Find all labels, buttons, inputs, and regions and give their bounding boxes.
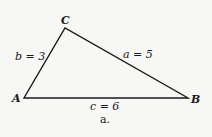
- vertex-label-c: C: [61, 14, 70, 27]
- side-label-a: a = 5: [123, 48, 153, 61]
- side-label-b: b = 3: [15, 50, 45, 63]
- triangle-abc: [24, 28, 188, 98]
- figure-caption: a.: [100, 113, 110, 126]
- triangle-diagram: C A B b = 3 a = 5 c = 6 a.: [0, 0, 212, 137]
- side-label-c: c = 6: [90, 100, 119, 113]
- vertex-label-b: B: [190, 93, 200, 106]
- vertex-label-a: A: [11, 92, 21, 105]
